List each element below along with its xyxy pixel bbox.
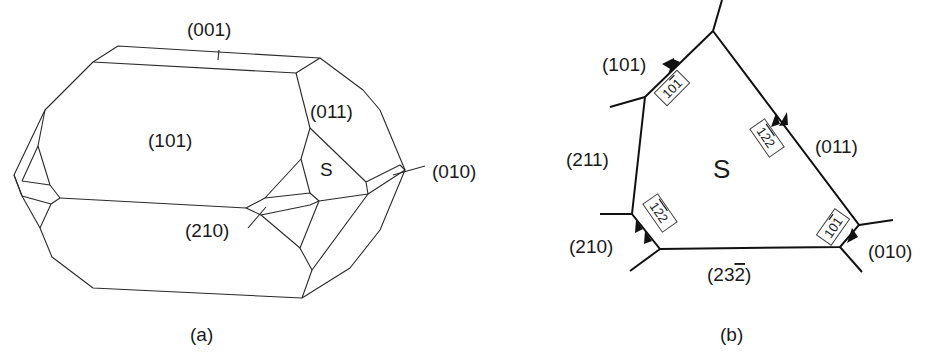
label-101: (101) xyxy=(148,130,192,151)
caption-a: (a) xyxy=(190,324,213,345)
panel-b-direction-labels: 101 122 122 101 xyxy=(643,70,850,245)
label-010: (010) xyxy=(432,161,476,182)
caption-b: (b) xyxy=(720,324,743,345)
panel-b-labels: (101) (211) S (011) (210) (010) (232) (b… xyxy=(566,54,912,345)
arrow-icon xyxy=(662,58,674,70)
label-011: (011) xyxy=(310,101,353,122)
arrow-icon xyxy=(771,113,780,127)
label-210: (210) xyxy=(185,220,229,241)
direction-101bar-lower: 101 xyxy=(821,214,846,240)
label-s-face: S xyxy=(320,159,333,180)
label-b-010: (010) xyxy=(868,241,912,262)
label-b-23-2bar: (232) xyxy=(707,264,751,285)
panel-a-crystal xyxy=(14,46,425,298)
label-b-101: (101) xyxy=(602,54,646,75)
label-b-210: (210) xyxy=(569,236,613,257)
label-b-211: (211) xyxy=(566,149,609,170)
label-b-s: S xyxy=(713,154,730,184)
label-b-011: (011) xyxy=(815,136,858,157)
direction-1bar2bar2-left: 122 xyxy=(647,199,672,225)
direction-1bar2bar2-right: 122 xyxy=(754,124,779,150)
label-001: (001) xyxy=(187,19,231,40)
crystal-diagram: (001) (101) (011) S (010) (210) (a) 101 xyxy=(0,0,931,356)
